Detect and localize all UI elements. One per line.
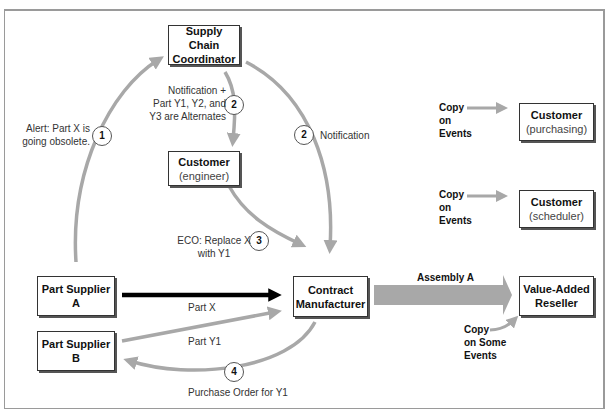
step-badge-3: 3 [249,231,269,251]
label-eco: ECO: Replace X with Y1 [176,234,252,260]
step-badge-4: 4 [224,362,244,382]
node-contract-manufacturer[interactable]: Contract Manufacturer [293,276,368,317]
node-title: Customer [178,155,229,169]
label-line: ECO: Replace X [176,234,252,247]
label-part-y1: Part Y1 [188,335,221,348]
node-title: Contract [308,283,353,297]
node-title: Supply Chain [169,24,239,52]
node-customer-purchasing[interactable]: Customer (purchasing) [519,103,594,141]
node-title: Reseller [535,296,578,310]
node-subtitle: (scheduler) [529,209,584,223]
label-copy-on-some-events: Copy on Some Events [464,323,506,362]
label-line: Events [464,349,506,362]
node-part-supplier-b[interactable]: Part Supplier B [37,331,115,371]
node-title: Manufacturer [296,297,366,311]
label-alert: Alert: Part X is going obsolete. [14,122,90,148]
label-line: Events [439,127,472,140]
node-part-supplier-a[interactable]: Part Supplier A [37,276,115,316]
step-badge-2-alternates: 2 [224,95,244,115]
label-copy-on-events-scheduler: Copy on Events [439,188,472,227]
label-line: Part Y1, Y2, and [142,97,226,110]
step-badge-2-notification: 2 [294,125,314,145]
step-badge-1: 1 [92,126,112,146]
label-part-x: Part X [188,301,216,314]
label-line: Alert: Part X is [14,122,90,135]
label-line: on [439,201,472,214]
label-line: Y3 are Alternates [142,110,226,123]
label-line: Copy [439,188,472,201]
label-line: Notification + [142,84,226,97]
node-title: Customer [531,108,582,122]
label-line: Copy [464,323,506,336]
node-subtitle: (purchasing) [526,122,587,136]
label-notification: Notification [320,129,369,142]
node-customer-engineer[interactable]: Customer (engineer) [168,151,240,186]
node-subtitle: (engineer) [179,169,229,183]
arrow-purchase-order [130,322,315,370]
node-title: Part Supplier A [38,282,114,310]
label-line: Events [439,214,472,227]
node-title: Value-Added [523,282,590,296]
label-line: with Y1 [176,247,252,260]
node-title: Customer [531,195,582,209]
label-line: on [439,114,472,127]
label-copy-on-events-purchasing: Copy on Events [439,101,472,140]
label-line: on Some [464,336,506,349]
node-supply-chain-coordinator[interactable]: Supply Chain Coordinator [168,25,240,65]
node-customer-scheduler[interactable]: Customer (scheduler) [519,190,594,228]
node-title: Coordinator [173,52,236,66]
node-title: Part Supplier B [38,337,114,365]
label-line: Copy [439,101,472,114]
label-purchase-order: Purchase Order for Y1 [188,386,288,399]
node-value-added-reseller[interactable]: Value-Added Reseller [519,276,594,316]
label-notification-alternates: Notification + Part Y1, Y2, and Y3 are A… [142,84,226,123]
label-line: going obsolete. [14,135,90,148]
label-assembly-a: Assembly A [417,271,474,284]
